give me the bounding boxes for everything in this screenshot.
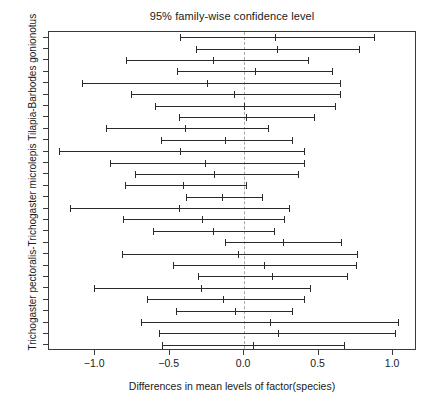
confidence-interval-row [49, 193, 415, 202]
confidence-interval-row [49, 238, 415, 247]
confidence-interval-row [49, 250, 415, 259]
interval-point-estimate [222, 194, 223, 201]
interval-lower-cap [161, 137, 162, 144]
interval-lower-cap [225, 239, 226, 246]
interval-bar [131, 94, 340, 95]
interval-upper-cap [310, 285, 311, 292]
interval-point-estimate [180, 148, 181, 155]
y-axis-tick [43, 242, 48, 243]
confidence-interval-row [49, 215, 415, 224]
interval-upper-cap [304, 148, 305, 155]
confidence-interval-row [49, 102, 415, 111]
interval-point-estimate [235, 308, 236, 315]
confidence-interval-row [49, 79, 415, 88]
interval-upper-cap [335, 103, 336, 110]
y-axis-tick [43, 139, 48, 140]
y-axis-tick [43, 253, 48, 254]
interval-upper-cap [314, 114, 315, 121]
interval-lower-cap [106, 125, 107, 132]
y-axis-tick [43, 128, 48, 129]
interval-bar [125, 185, 246, 186]
interval-upper-cap [398, 319, 399, 326]
confidence-interval-row [49, 329, 415, 338]
interval-lower-cap [135, 171, 136, 178]
y-axis-tick [43, 230, 48, 231]
interval-bar [126, 60, 308, 61]
interval-upper-cap [292, 308, 293, 315]
interval-lower-cap [147, 296, 148, 303]
interval-point-estimate [277, 46, 278, 53]
interval-bar [186, 197, 262, 198]
interval-point-estimate [185, 125, 186, 132]
x-axis-tick-label: 0.5 [310, 357, 325, 369]
x-axis-tick [169, 350, 170, 355]
confidence-interval-row [49, 272, 415, 281]
interval-upper-cap [347, 273, 348, 280]
interval-upper-cap [304, 296, 305, 303]
interval-lower-cap [122, 251, 123, 258]
confidence-interval-row [49, 318, 415, 327]
interval-bar [110, 163, 304, 164]
interval-point-estimate [264, 262, 265, 269]
interval-lower-cap [126, 57, 127, 64]
interval-upper-cap [289, 205, 290, 212]
interval-point-estimate [238, 251, 239, 258]
interval-point-estimate [244, 103, 245, 110]
interval-upper-cap [268, 125, 269, 132]
y-axis-tick [43, 59, 48, 60]
interval-lower-cap [196, 46, 197, 53]
confidence-interval-row [49, 56, 415, 65]
interval-point-estimate [246, 114, 247, 121]
confidence-interval-row [49, 159, 415, 168]
interval-lower-cap [123, 216, 124, 223]
interval-lower-cap [125, 182, 126, 189]
interval-bar [180, 37, 374, 38]
confidence-interval-row [49, 124, 415, 133]
interval-bar [161, 140, 292, 141]
y-axis-tick [43, 162, 48, 163]
interval-lower-cap [179, 114, 180, 121]
confidence-interval-row [49, 295, 415, 304]
confidence-interval-row [49, 227, 415, 236]
x-axis-tick [94, 350, 95, 355]
interval-point-estimate [234, 91, 235, 98]
interval-lower-cap [141, 319, 142, 326]
interval-upper-cap [284, 216, 285, 223]
interval-point-estimate [255, 68, 256, 75]
interval-upper-cap [356, 262, 357, 269]
interval-lower-cap [180, 34, 181, 41]
interval-lower-cap [186, 194, 187, 201]
interval-upper-cap [374, 34, 375, 41]
confidence-interval-row [49, 67, 415, 76]
x-axis-tick [243, 350, 244, 355]
y-axis-tick-marks [43, 31, 48, 350]
interval-bar [135, 174, 297, 175]
y-axis-tick [43, 185, 48, 186]
interval-upper-cap [304, 160, 305, 167]
interval-point-estimate [275, 34, 276, 41]
interval-lower-cap [162, 342, 163, 349]
interval-point-estimate [183, 182, 184, 189]
interval-bar [176, 311, 292, 312]
plot-area [49, 32, 415, 349]
interval-point-estimate [270, 319, 271, 326]
y-axis-tick [43, 219, 48, 220]
confidence-interval-row [49, 341, 415, 350]
y-axis-tick [43, 265, 48, 266]
interval-upper-cap [340, 80, 341, 87]
confidence-interval-row [49, 147, 415, 156]
interval-upper-cap [274, 228, 275, 235]
interval-bar [59, 151, 303, 152]
y-axis-tick [43, 37, 48, 38]
y-axis-title: Trichogaster pectoralis-Trichogaster mic… [27, 21, 38, 351]
y-axis-tick [43, 151, 48, 152]
interval-upper-cap [359, 46, 360, 53]
interval-upper-cap [357, 251, 358, 258]
y-axis-tick [43, 333, 48, 334]
y-axis-tick [43, 208, 48, 209]
interval-lower-cap [153, 228, 154, 235]
interval-lower-cap [59, 148, 60, 155]
interval-point-estimate [207, 80, 208, 87]
interval-lower-cap [110, 160, 111, 167]
y-axis-tick [43, 322, 48, 323]
